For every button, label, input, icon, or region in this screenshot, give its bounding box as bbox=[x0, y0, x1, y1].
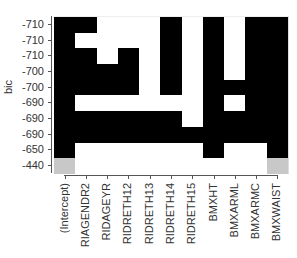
heatmap-cell bbox=[139, 95, 160, 111]
heatmap-cell bbox=[224, 143, 245, 159]
heatmap-cell bbox=[139, 158, 160, 174]
x-axis: (Intercept)RIAGENDR2RIDAGEYRRIDRETH12RID… bbox=[54, 175, 288, 258]
y-tick-label: -710 bbox=[22, 49, 44, 61]
heatmap-cell bbox=[245, 111, 266, 127]
x-tick bbox=[107, 175, 108, 179]
heatmap-cell bbox=[54, 143, 75, 159]
heatmap-cell bbox=[267, 17, 288, 33]
heatmap-cell bbox=[203, 17, 224, 33]
heatmap-cell bbox=[182, 143, 203, 159]
heatmap-cell bbox=[182, 111, 203, 127]
heatmap-cell bbox=[203, 80, 224, 96]
heatmap-cell bbox=[97, 127, 118, 143]
heatmap-cell bbox=[97, 111, 118, 127]
heatmap-cell bbox=[160, 127, 181, 143]
heatmap-cell bbox=[245, 48, 266, 64]
heatmap-cell bbox=[160, 143, 181, 159]
heatmap-cell bbox=[245, 95, 266, 111]
x-tick bbox=[235, 175, 236, 179]
heatmap-cell bbox=[75, 80, 96, 96]
heatmap-cell bbox=[97, 33, 118, 49]
x-tick bbox=[256, 175, 257, 179]
heatmap-cell bbox=[75, 95, 96, 111]
heatmap-cell bbox=[267, 95, 288, 111]
x-tick bbox=[277, 175, 278, 179]
heatmap-cell bbox=[139, 17, 160, 33]
heatmap-cell bbox=[203, 33, 224, 49]
x-tick-label: (Intercept) bbox=[58, 183, 70, 233]
heatmap-cell bbox=[224, 158, 245, 174]
heatmap-cell bbox=[245, 80, 266, 96]
heatmap-cell bbox=[224, 48, 245, 64]
heatmap-cell bbox=[224, 33, 245, 49]
y-tick bbox=[48, 102, 52, 103]
heatmap-cell bbox=[182, 17, 203, 33]
heatmap-cell bbox=[267, 143, 288, 159]
heatmap-cell bbox=[75, 143, 96, 159]
heatmap-cell bbox=[97, 158, 118, 174]
heatmap-cell bbox=[203, 48, 224, 64]
x-tick bbox=[171, 175, 172, 179]
heatmap-cell bbox=[160, 48, 181, 64]
heatmap-cell bbox=[139, 111, 160, 127]
heatmap-cell bbox=[203, 143, 224, 159]
heatmap-cell bbox=[182, 95, 203, 111]
heatmap-cell bbox=[75, 17, 96, 33]
heatmap-cell bbox=[97, 95, 118, 111]
heatmap-cell bbox=[182, 127, 203, 143]
heatmap-cell bbox=[182, 158, 203, 174]
heatmap-cell bbox=[118, 64, 139, 80]
heatmap-cell bbox=[97, 48, 118, 64]
heatmap-cell bbox=[54, 64, 75, 80]
heatmap-cell bbox=[267, 64, 288, 80]
heatmap-cell bbox=[54, 95, 75, 111]
heatmap-cell bbox=[75, 33, 96, 49]
heatmap-cell bbox=[118, 111, 139, 127]
heatmap-cell bbox=[182, 80, 203, 96]
heatmap-cell bbox=[54, 17, 75, 33]
heatmap-cell bbox=[97, 80, 118, 96]
heatmap-cell bbox=[75, 111, 96, 127]
heatmap-cell bbox=[245, 17, 266, 33]
x-tick-label: RIDAGEYR bbox=[100, 183, 112, 240]
heatmap-plot-area bbox=[54, 16, 289, 174]
heatmap-cell bbox=[267, 80, 288, 96]
x-tick-label: RIAGENDR2 bbox=[79, 183, 91, 247]
heatmap-cell bbox=[267, 158, 288, 174]
heatmap-cell bbox=[75, 127, 96, 143]
heatmap-cell bbox=[182, 48, 203, 64]
y-axis-label: bic bbox=[2, 80, 14, 94]
heatmap-cell bbox=[267, 111, 288, 127]
heatmap-cell bbox=[118, 33, 139, 49]
heatmap-cell bbox=[224, 80, 245, 96]
heatmap-cell bbox=[75, 158, 96, 174]
heatmap-cell bbox=[203, 158, 224, 174]
heatmap-cell bbox=[97, 143, 118, 159]
heatmap-cell bbox=[182, 64, 203, 80]
heatmap-cell bbox=[54, 158, 75, 174]
heatmap-cell bbox=[182, 33, 203, 49]
y-tick bbox=[48, 134, 52, 135]
heatmap-cell bbox=[160, 64, 181, 80]
heatmap-cell bbox=[245, 64, 266, 80]
y-tick bbox=[48, 118, 52, 119]
y-tick-label: -690 bbox=[22, 96, 44, 108]
x-tick-label: BMXWAIST bbox=[270, 183, 282, 241]
heatmap-cell bbox=[245, 143, 266, 159]
heatmap-cell bbox=[245, 158, 266, 174]
heatmap-cell bbox=[245, 127, 266, 143]
heatmap-cell bbox=[224, 17, 245, 33]
heatmap-cell bbox=[267, 127, 288, 143]
heatmap-cell bbox=[160, 80, 181, 96]
x-tick bbox=[128, 175, 129, 179]
heatmap-cell bbox=[160, 111, 181, 127]
heatmap-cell bbox=[54, 33, 75, 49]
heatmap-cell bbox=[118, 17, 139, 33]
x-tick-label: RIDRETH12 bbox=[121, 183, 133, 244]
x-tick bbox=[65, 175, 66, 179]
heatmap-cell bbox=[139, 80, 160, 96]
heatmap-cell bbox=[160, 33, 181, 49]
heatmap-cell bbox=[118, 127, 139, 143]
y-tick-label: -690 bbox=[22, 128, 44, 140]
x-tick-label: BMXHT bbox=[207, 183, 219, 222]
